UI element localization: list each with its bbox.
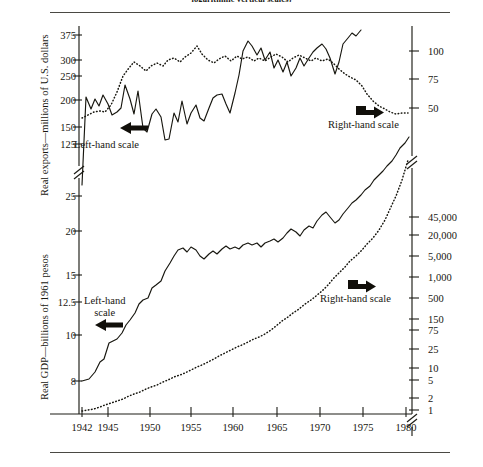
series-gdp-left-solid — [82, 137, 409, 381]
arrow-left-icon-exports — [120, 122, 148, 134]
arrow-right-icon-exports — [356, 106, 384, 119]
left-axis-ticks-gdp — [73, 231, 82, 381]
chart-canvas — [0, 0, 483, 467]
right-axis-spine — [407, 26, 417, 436]
arrow-right-icon-gdp — [348, 280, 376, 293]
right-axis-ticks-gdp — [409, 217, 419, 410]
x-axis-ticks — [82, 407, 406, 417]
figure-root: logarithmic vertical scales) Real export… — [0, 0, 483, 467]
arrow-left-icon-gdp — [95, 319, 123, 331]
series-exports-left-solid — [82, 30, 361, 185]
left-axis-spine — [74, 26, 84, 414]
right-axis-ticks-exports — [409, 51, 419, 108]
